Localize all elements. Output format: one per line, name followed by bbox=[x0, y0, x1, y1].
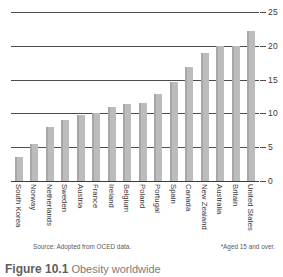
footnote: *Aged 15 and over. bbox=[221, 243, 275, 251]
x-axis-label: Australia bbox=[215, 184, 223, 214]
x-axis-label: Portugal bbox=[153, 184, 161, 213]
y-tick-mark bbox=[260, 113, 266, 114]
y-tick-label: 10 bbox=[268, 109, 278, 118]
y-tick-mark bbox=[260, 12, 266, 13]
bar bbox=[216, 46, 224, 181]
x-axis-label: South Korea bbox=[14, 184, 22, 227]
y-tick-mark bbox=[260, 46, 266, 47]
x-axis-label: Norway bbox=[29, 184, 37, 210]
bar bbox=[61, 120, 69, 181]
y-tick-mark bbox=[260, 80, 266, 81]
bar bbox=[123, 104, 131, 181]
y-tick-mark bbox=[260, 181, 266, 182]
x-axis-label: Austria bbox=[76, 184, 84, 208]
bar bbox=[92, 113, 100, 181]
x-axis-label: Britain bbox=[231, 184, 239, 206]
bar bbox=[154, 94, 162, 181]
figure-container: 0510152025 South KoreaNorwayNetherlandsS… bbox=[0, 0, 283, 277]
x-axis-label: Spain bbox=[169, 184, 177, 204]
bar bbox=[170, 82, 178, 181]
y-tick-mark bbox=[260, 147, 266, 148]
bar bbox=[247, 31, 255, 181]
axis-baseline bbox=[11, 181, 259, 182]
x-axis-label: Sweden bbox=[60, 184, 68, 212]
y-tick-label: 20 bbox=[268, 42, 278, 51]
y-tick-label: 5 bbox=[268, 143, 273, 152]
bar bbox=[232, 46, 240, 181]
bar bbox=[46, 127, 54, 181]
caption-number: Figure 10.1 bbox=[5, 262, 68, 276]
bar bbox=[201, 53, 209, 181]
x-axis-label: Netherlands bbox=[45, 184, 53, 226]
y-tick-label: 15 bbox=[268, 76, 278, 85]
x-axis-label: France bbox=[91, 184, 99, 208]
bar bbox=[15, 157, 23, 181]
x-axis-label: United States bbox=[246, 184, 254, 231]
source-note: Source: Adopted from OCED data. bbox=[33, 243, 131, 251]
bar bbox=[30, 144, 38, 181]
bar bbox=[185, 67, 193, 181]
x-axis-labels: South KoreaNorwayNetherlandsSwedenAustri… bbox=[11, 184, 259, 240]
y-tick-label: 25 bbox=[268, 8, 278, 17]
x-axis-label: New Zealand bbox=[200, 184, 208, 230]
x-axis-label: Ireland bbox=[107, 184, 115, 208]
caption-text: Obesity worldwide bbox=[71, 263, 160, 275]
figure-caption: Figure 10.1 Obesity worldwide bbox=[5, 263, 161, 276]
x-axis-label: Belgium bbox=[122, 184, 130, 212]
bar-series bbox=[11, 8, 259, 181]
x-axis-label: Canada bbox=[184, 184, 192, 211]
bar bbox=[77, 115, 85, 181]
bar bbox=[139, 103, 147, 181]
bar bbox=[108, 107, 116, 181]
y-tick-label: 0 bbox=[268, 177, 273, 186]
x-axis-label: Poland bbox=[138, 184, 146, 208]
